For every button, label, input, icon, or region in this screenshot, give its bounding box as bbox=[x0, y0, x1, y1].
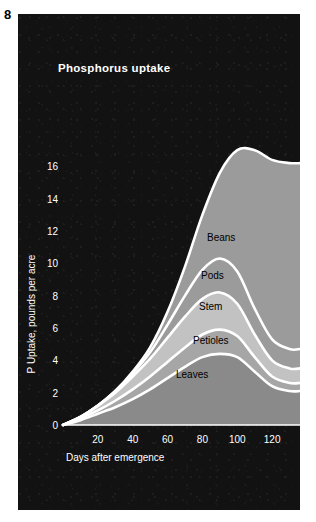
area-bands-group bbox=[63, 148, 300, 425]
x-tick-80: 80 bbox=[197, 434, 209, 445]
x-axis-tick-labels: 20406080100120 bbox=[92, 434, 281, 445]
series-label-stem: Stem bbox=[199, 301, 222, 312]
y-tick-16: 16 bbox=[47, 161, 59, 172]
y-tick-14: 14 bbox=[47, 194, 59, 205]
chart-panel: Phosphorus uptake 0246810121416 20406080… bbox=[18, 14, 300, 510]
y-tick-12: 12 bbox=[47, 226, 59, 237]
series-label-petioles: Petioles bbox=[193, 335, 229, 346]
figure-number: 8 bbox=[4, 8, 11, 21]
series-label-pods: Pods bbox=[201, 270, 224, 281]
y-axis-tick-labels: 0246810121416 bbox=[47, 161, 59, 431]
y-axis-title: P Uptake, pounds per acre bbox=[26, 254, 37, 373]
x-tick-40: 40 bbox=[127, 434, 139, 445]
y-tick-0: 0 bbox=[52, 420, 58, 431]
x-tick-120: 120 bbox=[264, 434, 281, 445]
y-tick-2: 2 bbox=[52, 388, 58, 399]
y-tick-4: 4 bbox=[52, 355, 58, 366]
series-label-beans: Beans bbox=[207, 232, 235, 243]
y-tick-10: 10 bbox=[47, 258, 59, 269]
y-tick-8: 8 bbox=[52, 291, 58, 302]
x-tick-60: 60 bbox=[162, 434, 174, 445]
x-tick-20: 20 bbox=[92, 434, 104, 445]
stacked-area-plot: 0246810121416 20406080100120 BeansPodsSt… bbox=[18, 14, 300, 510]
x-tick-100: 100 bbox=[229, 434, 246, 445]
figure-root: 8 Phosphorus uptake 0246810121416 204060… bbox=[0, 0, 316, 522]
x-axis-title: Days after emergence bbox=[66, 452, 165, 463]
series-label-leaves: Leaves bbox=[176, 369, 208, 380]
y-tick-6: 6 bbox=[52, 323, 58, 334]
